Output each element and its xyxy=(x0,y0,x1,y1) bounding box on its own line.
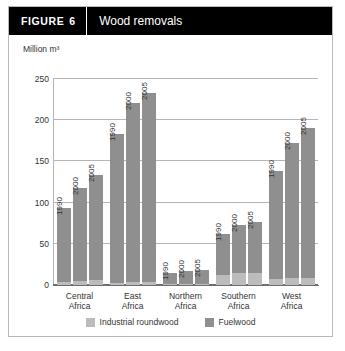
legend-label: Industrial roundwood xyxy=(100,317,179,327)
bar-segment-industrial-roundwood xyxy=(285,278,299,285)
bar-segment-fuelwood xyxy=(269,171,283,279)
bar-year-label: 2005 xyxy=(299,118,308,136)
x-axis-tick-label-line: Africa xyxy=(265,301,318,311)
y-axis-tick-labels: 050100150200250 xyxy=(25,79,49,285)
y-axis-tick-label: 250 xyxy=(35,74,49,84)
bar-segment-fuelwood xyxy=(248,222,262,272)
bar[interactable]: 2000 xyxy=(126,103,140,285)
y-axis-tick-label: 50 xyxy=(40,239,49,249)
bar-segment-industrial-roundwood xyxy=(195,284,209,285)
figure-header: FIGURE 6 Wood removals xyxy=(9,7,332,35)
bar-group: 199020002005 xyxy=(265,79,318,285)
legend-item[interactable]: Industrial roundwood xyxy=(86,317,179,327)
x-axis-tick-label: WestAfrica xyxy=(265,291,318,311)
bar-segment-industrial-roundwood xyxy=(142,282,156,285)
bar-year-label: 1990 xyxy=(214,223,223,241)
figure-tag-label: FIGURE xyxy=(9,15,64,27)
bar-year-label: 2005 xyxy=(246,211,255,229)
bar[interactable]: 2000 xyxy=(285,143,299,285)
bar[interactable]: 2005 xyxy=(89,175,103,285)
bar-segment-industrial-roundwood xyxy=(179,284,193,285)
bar-group: 199020002005 xyxy=(106,79,159,285)
bar-year-label: 1990 xyxy=(161,262,170,280)
y-axis-title: Million m³ xyxy=(23,44,59,54)
chart-body: Million m³ 050100150200250 1990200020051… xyxy=(9,35,332,336)
bar[interactable]: 2000 xyxy=(179,271,193,285)
bar-segment-industrial-roundwood xyxy=(73,281,87,285)
x-axis-tick-label-line: Southern xyxy=(212,291,265,301)
bar[interactable]: 2000 xyxy=(232,225,246,285)
bar-segment-fuelwood xyxy=(110,134,124,282)
bar-segment-industrial-roundwood xyxy=(126,282,140,285)
legend-item[interactable]: Fuelwood xyxy=(205,317,256,327)
bar-segment-fuelwood xyxy=(126,103,140,282)
x-axis-tick-label: CentralAfrica xyxy=(53,291,106,311)
bar-year-label: 2005 xyxy=(193,259,202,277)
x-axis-tick-label: NorthernAfrica xyxy=(159,291,212,311)
bar-segment-fuelwood xyxy=(89,175,103,280)
y-axis-tick-label: 100 xyxy=(35,198,49,208)
bar-year-label: 2000 xyxy=(230,214,239,232)
legend-swatch xyxy=(86,318,95,327)
x-axis-tick-label: SouthernAfrica xyxy=(212,291,265,311)
bar-segment-fuelwood xyxy=(301,128,315,277)
x-axis-tick-label-line: Africa xyxy=(53,301,106,311)
bar-year-label: 2005 xyxy=(140,82,149,100)
bar-segment-industrial-roundwood xyxy=(89,280,103,285)
bar-segment-industrial-roundwood xyxy=(216,275,230,285)
bar-segment-industrial-roundwood xyxy=(163,284,177,285)
y-axis-tick-label: 150 xyxy=(35,156,49,166)
bar-segment-industrial-roundwood xyxy=(248,273,262,285)
legend-swatch xyxy=(205,318,214,327)
bar-segment-fuelwood xyxy=(73,188,87,281)
bar-segment-fuelwood xyxy=(142,93,156,282)
x-axis-tick-label-line: Africa xyxy=(212,301,265,311)
bar-year-label: 1990 xyxy=(55,197,64,215)
bar[interactable]: 2005 xyxy=(142,93,156,285)
plot-area: 1990200020051990200020051990200020051990… xyxy=(53,79,318,285)
bar-year-label: 2000 xyxy=(124,92,133,110)
bar-segment-industrial-roundwood xyxy=(269,279,283,285)
x-axis-tick-label: EastAfrica xyxy=(106,291,159,311)
bar[interactable]: 2005 xyxy=(195,270,209,285)
y-axis-tick-label: 0 xyxy=(44,280,49,290)
bar-segment-fuelwood xyxy=(285,143,299,278)
x-axis-tick-label-line: West xyxy=(265,291,318,301)
legend-label: Fuelwood xyxy=(219,317,256,327)
bar-year-label: 2000 xyxy=(283,132,292,150)
bar-year-label: 2000 xyxy=(71,177,80,195)
bar[interactable]: 1990 xyxy=(269,171,283,285)
bar[interactable]: 2005 xyxy=(301,128,315,285)
figure-number: 6 xyxy=(64,15,75,27)
bar-segment-industrial-roundwood xyxy=(232,273,246,285)
y-axis-tick-label: 200 xyxy=(35,115,49,125)
bar-group: 199020002005 xyxy=(53,79,106,285)
bar-segment-fuelwood xyxy=(57,208,71,281)
bar[interactable]: 1990 xyxy=(163,273,177,285)
bar[interactable]: 1990 xyxy=(216,234,230,285)
bar-year-label: 1990 xyxy=(267,160,276,178)
bar[interactable]: 2005 xyxy=(248,222,262,285)
x-axis-tick-label-line: Africa xyxy=(159,301,212,311)
figure-title: Wood removals xyxy=(87,14,182,28)
x-axis-tick-label-line: Northern xyxy=(159,291,212,301)
bar-year-label: 2005 xyxy=(87,165,96,183)
bar-group: 199020002005 xyxy=(212,79,265,285)
chart-legend: Industrial roundwoodFuelwood xyxy=(9,317,332,327)
bar-year-label: 1990 xyxy=(108,123,117,141)
bar[interactable]: 2000 xyxy=(73,188,87,285)
bar-group: 199020002005 xyxy=(159,79,212,285)
bar-segment-industrial-roundwood xyxy=(110,283,124,285)
figure-container: FIGURE 6 Wood removals Million m³ 050100… xyxy=(8,6,333,337)
x-axis-tick-label-line: East xyxy=(106,291,159,301)
x-axis-tick-label-line: Central xyxy=(53,291,106,301)
bar[interactable]: 1990 xyxy=(110,134,124,285)
bar-segment-industrial-roundwood xyxy=(301,278,315,285)
bar-segment-industrial-roundwood xyxy=(57,282,71,285)
bar-segment-fuelwood xyxy=(232,225,246,274)
bar[interactable]: 1990 xyxy=(57,208,71,285)
x-axis-tick-label-line: Africa xyxy=(106,301,159,311)
bar-year-label: 2000 xyxy=(177,260,186,278)
x-axis-line xyxy=(53,285,319,286)
